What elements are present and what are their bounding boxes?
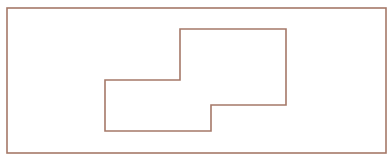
stepped-polygon-shape: [105, 29, 286, 131]
diagram-canvas: [0, 0, 390, 158]
